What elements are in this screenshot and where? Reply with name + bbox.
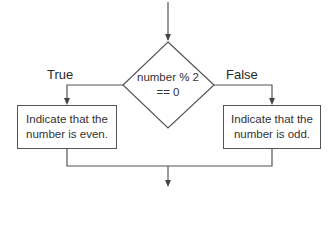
true-box-line-1: Indicate that the: [26, 112, 108, 127]
false-box-line-2: number is odd.: [234, 127, 310, 142]
true-box-line-2: number is even.: [26, 127, 108, 142]
merge-connector: [67, 149, 272, 166]
condition-line-1: number % 2: [128, 70, 208, 85]
false-box-line-1: Indicate that the: [231, 112, 313, 127]
true-branch-connector: [67, 85, 123, 103]
decision-condition: number % 2 == 0: [128, 70, 208, 100]
condition-line-2: == 0: [128, 85, 208, 100]
false-label: False: [226, 67, 258, 82]
false-branch-connector: [214, 85, 272, 103]
true-action-box: Indicate that the number is even.: [17, 105, 117, 149]
true-label: True: [47, 67, 73, 82]
false-action-box: Indicate that the number is odd.: [223, 105, 321, 149]
